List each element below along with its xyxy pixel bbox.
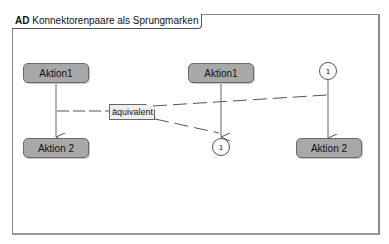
edges-layer (0, 0, 389, 244)
left-action-aktion2: Aktion 2 (23, 138, 89, 158)
note-anchor-right-connector (153, 95, 327, 106)
middle-connector-1: 1 (212, 138, 230, 156)
note-anchor-middle-connector (155, 119, 219, 133)
middle-action-aktion1: Aktion1 (188, 63, 254, 83)
right-action-aktion2: Aktion 2 (296, 138, 362, 158)
left-action-aktion1: Aktion1 (23, 63, 89, 83)
right-connector-1: 1 (319, 62, 337, 80)
note-aequivalent: äquivalent (109, 104, 155, 120)
